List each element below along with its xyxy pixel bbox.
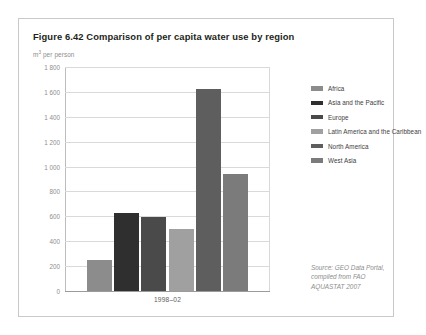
y-tick-label-1400: 1 400 bbox=[44, 113, 60, 120]
chart-legend: AfricaAsia and the PacificEuropeLatin Am… bbox=[311, 85, 426, 171]
legend-label: Latin America and the Caribbean bbox=[328, 128, 421, 135]
bar-north-america bbox=[196, 89, 221, 291]
legend-item-asia-and-the-pacific: Asia and the Pacific bbox=[311, 99, 426, 106]
bar-europe bbox=[141, 217, 166, 291]
source-line-2: compiled from FAO bbox=[311, 272, 423, 281]
legend-swatch-icon bbox=[311, 158, 323, 162]
legend-swatch-icon bbox=[311, 101, 323, 105]
y-tick-label-400: 400 bbox=[49, 238, 60, 245]
y-axis-unit-suffix: per person bbox=[41, 51, 74, 58]
legend-swatch-icon bbox=[311, 129, 323, 133]
x-axis-label: 1998–02 bbox=[65, 296, 270, 303]
bar-africa bbox=[87, 260, 112, 291]
bar-asia-and-the-pacific bbox=[114, 213, 139, 291]
legend-item-africa: Africa bbox=[311, 85, 426, 92]
y-tick-label-1200: 1 200 bbox=[44, 138, 60, 145]
legend-label: West Asia bbox=[328, 157, 356, 164]
y-tick-label-1000: 1 000 bbox=[44, 163, 60, 170]
y-tick-label-600: 600 bbox=[49, 213, 60, 220]
legend-item-latin-america-and-the-caribbean: Latin America and the Caribbean bbox=[311, 128, 426, 135]
legend-swatch-icon bbox=[311, 144, 323, 148]
y-tick-label-800: 800 bbox=[49, 188, 60, 195]
legend-swatch-icon bbox=[311, 115, 323, 119]
legend-swatch-icon bbox=[311, 86, 323, 90]
legend-label: Europe bbox=[328, 114, 349, 121]
source-line-1: Source: GEO Data Portal, bbox=[311, 263, 423, 272]
y-axis-tick-labels: 02004006008001 0001 2001 4001 6001 800 bbox=[19, 67, 63, 291]
y-tick-label-1800: 1 800 bbox=[44, 64, 60, 71]
page-title: Figure 6.42 Comparison of per capita wat… bbox=[33, 31, 363, 42]
gridline-0 bbox=[65, 291, 270, 292]
bar-latin-america-and-the-caribbean bbox=[169, 229, 194, 291]
y-tick-label-0: 0 bbox=[56, 288, 60, 295]
bar-series bbox=[65, 67, 270, 291]
legend-item-europe: Europe bbox=[311, 114, 426, 121]
y-tick-label-1600: 1 600 bbox=[44, 88, 60, 95]
y-axis-unit-label: m3 per person bbox=[33, 50, 75, 58]
legend-label: North America bbox=[328, 143, 369, 150]
legend-label: Africa bbox=[328, 85, 344, 92]
source-note: Source: GEO Data Portal, compiled from F… bbox=[311, 263, 423, 291]
y-tick-label-200: 200 bbox=[49, 263, 60, 270]
legend-item-north-america: North America bbox=[311, 143, 426, 150]
legend-label: Asia and the Pacific bbox=[328, 99, 384, 106]
legend-item-west-asia: West Asia bbox=[311, 157, 426, 164]
figure-card: Figure 6.42 Comparison of per capita wat… bbox=[18, 18, 394, 317]
source-line-3: AQUASTAT 2007 bbox=[311, 282, 423, 291]
bar-west-asia bbox=[223, 174, 248, 291]
plot-area bbox=[65, 67, 270, 291]
